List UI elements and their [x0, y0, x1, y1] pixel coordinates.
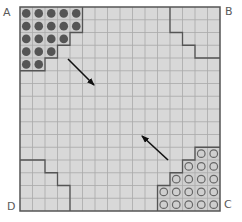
filled-piece [59, 9, 68, 18]
filled-piece [47, 22, 56, 31]
filled-piece [72, 22, 81, 31]
filled-piece [22, 9, 31, 18]
filled-piece [22, 47, 31, 56]
filled-piece [34, 22, 43, 31]
filled-piece [22, 35, 31, 44]
filled-piece [22, 60, 31, 69]
filled-piece [47, 9, 56, 18]
filled-piece [47, 47, 56, 56]
filled-piece [34, 9, 43, 18]
filled-piece [34, 35, 43, 44]
filled-piece [34, 60, 43, 69]
filled-piece [34, 47, 43, 56]
filled-piece [22, 22, 31, 31]
filled-piece [59, 35, 68, 44]
corner-label-c: C [224, 199, 232, 210]
halma-board-diagram [0, 0, 242, 222]
corner-label-d: D [7, 201, 15, 212]
corner-label-b: B [225, 6, 233, 17]
filled-piece [59, 22, 68, 31]
corner-label-a: A [3, 7, 11, 18]
filled-piece [47, 35, 56, 44]
filled-piece [72, 9, 81, 18]
